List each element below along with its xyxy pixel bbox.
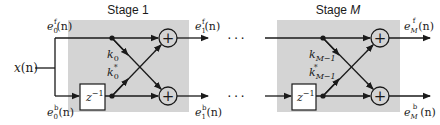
label-e0b: e0b(n)	[47, 104, 74, 121]
lattice-filter-diagram: Stage 1 x(n) z−1 k0 k0* + +	[0, 0, 440, 125]
svg-text:+: +	[374, 29, 387, 47]
ellipsis-backward: ···	[227, 87, 247, 103]
stage-m-title: Stage M	[316, 3, 361, 17]
adder-forward-m: +	[371, 29, 389, 47]
svg-text:+: +	[162, 29, 175, 47]
stage-m: Stage M z−1 kM−1 kM−1* + + eMf(n) eMb(n)	[265, 3, 436, 121]
coef-k0-conj: k0*	[107, 63, 119, 81]
input-label: x(n)	[14, 61, 38, 75]
adder-backward-m: +	[371, 87, 389, 105]
label-e0f: e0f(n)	[47, 18, 72, 35]
stage-1: Stage 1 x(n) z−1 k0 k0* + +	[14, 3, 222, 121]
ellipsis-forward: ···	[227, 29, 247, 45]
svg-text:+: +	[162, 87, 175, 105]
adder-forward-1: +	[159, 29, 177, 47]
label-eMf: eMf(n)	[404, 17, 434, 35]
label-e1f: e1f(n)	[195, 18, 220, 35]
stage-1-title: Stage 1	[107, 3, 149, 17]
adder-backward-1: +	[159, 87, 177, 105]
svg-text:+: +	[374, 87, 387, 105]
label-eMb: eMb(n)	[404, 103, 436, 121]
label-e1b: e1b(n)	[195, 104, 222, 121]
